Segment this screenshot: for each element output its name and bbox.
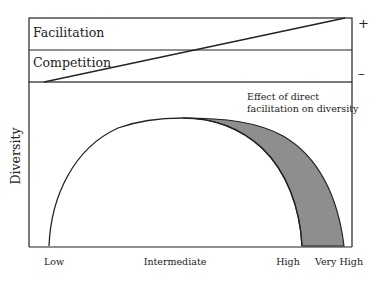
- x-tick-low: Low: [44, 256, 64, 267]
- annotation-line-1: Effect of direct: [247, 91, 319, 102]
- y-axis-label: Diversity: [8, 127, 23, 185]
- gradient-panel: Facilitation Competition + –: [29, 16, 369, 82]
- x-tick-very-high: Very High: [314, 256, 363, 267]
- x-tick-high: High: [276, 256, 300, 267]
- main-plot: Effect of direct facilitation on diversi…: [8, 82, 363, 267]
- plus-sign: +: [358, 16, 369, 31]
- minus-sign: –: [358, 66, 365, 81]
- facilitation-effect-region: [183, 118, 344, 246]
- x-tick-intermediate: Intermediate: [144, 256, 207, 267]
- facilitation-label: Facilitation: [33, 25, 104, 40]
- annotation-line-2: facilitation on diversity: [247, 103, 359, 114]
- competition-label: Competition: [33, 55, 111, 70]
- facilitation-diversity-diagram: Facilitation Competition + – Effect of d…: [0, 0, 376, 282]
